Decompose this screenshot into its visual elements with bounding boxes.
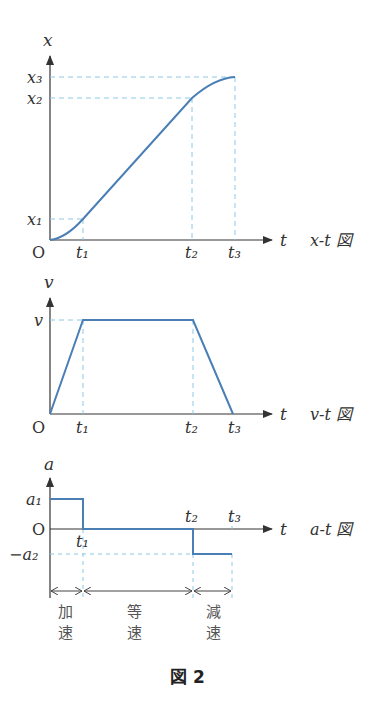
vt-origin: O <box>32 418 45 437</box>
xt-graph: x x₃ x₂ x₁ O t₁ t₂ t₃ t x-t 図 <box>27 30 354 262</box>
xt-title: x-t 図 <box>310 231 354 250</box>
phase-accel-1: 加 <box>58 603 73 621</box>
xt-y-label: x <box>43 30 53 50</box>
at-tick-t3: t₃ <box>228 507 241 526</box>
vt-tick-t1: t₁ <box>76 418 89 437</box>
vt-guides <box>50 320 193 414</box>
at-y-label: a <box>44 454 54 474</box>
xt-t-label: t <box>280 230 287 250</box>
vt-t-label: t <box>280 404 287 424</box>
at-tick-t2: t₂ <box>185 507 198 526</box>
xt-origin: O <box>32 243 45 262</box>
xt-guides <box>50 77 235 240</box>
xt-curve <box>50 77 235 240</box>
at-tick-t1: t₁ <box>76 532 89 551</box>
xt-tick-x2: x₂ <box>27 89 42 108</box>
xt-tick-t1: t₁ <box>76 243 89 262</box>
xt-tick-t3: t₃ <box>228 243 241 262</box>
at-title: a-t 図 <box>310 520 354 539</box>
vt-title: v-t 図 <box>310 405 354 424</box>
figure-caption: 図 2 <box>170 667 205 687</box>
at-graph: a a₁ O −a₂ t₁ t₂ t₃ t a-t 図 加 速 等 速 減 速 <box>9 454 354 642</box>
vt-y-label: v <box>44 272 54 292</box>
xt-tick-x3: x₃ <box>27 68 42 87</box>
xt-tick-t2: t₂ <box>185 243 198 262</box>
vt-curve <box>50 320 233 414</box>
vt-tick-t3: t₃ <box>228 418 241 437</box>
phase-const-2: 速 <box>127 624 142 642</box>
phase-const-1: 等 <box>127 603 142 621</box>
phase-decel-1: 減 <box>206 603 221 621</box>
phase-accel-2: 速 <box>58 624 73 642</box>
motion-diagram: x x₃ x₂ x₁ O t₁ t₂ t₃ t x-t 図 v v O t₁ t… <box>0 0 384 701</box>
at-tick-a1: a₁ <box>26 490 42 509</box>
at-t-label: t <box>280 519 287 539</box>
vt-tick-v: v <box>34 311 43 330</box>
at-tick-neg-a2: −a₂ <box>9 545 38 564</box>
vt-tick-t2: t₂ <box>185 418 198 437</box>
phase-decel-2: 速 <box>206 624 221 642</box>
at-zero: O <box>32 520 45 539</box>
vt-graph: v v O t₁ t₂ t₃ t v-t 図 <box>32 272 354 437</box>
xt-tick-x1: x₁ <box>27 210 42 229</box>
